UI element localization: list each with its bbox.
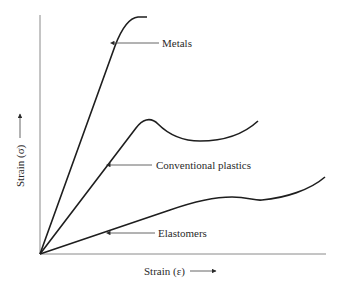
stress-strain-chart: Metals Conventional plastics Elastomers … [0, 0, 341, 289]
elastomers-label: Elastomers [158, 227, 207, 239]
elastomers-curve [40, 177, 325, 254]
x-axis-label: Strain (ε) [144, 265, 185, 278]
plastics-curve [40, 120, 258, 254]
plastics-label: Conventional plastics [156, 159, 251, 171]
y-axis-label: Strain (σ) [14, 144, 27, 187]
metals-label: Metals [162, 37, 192, 49]
